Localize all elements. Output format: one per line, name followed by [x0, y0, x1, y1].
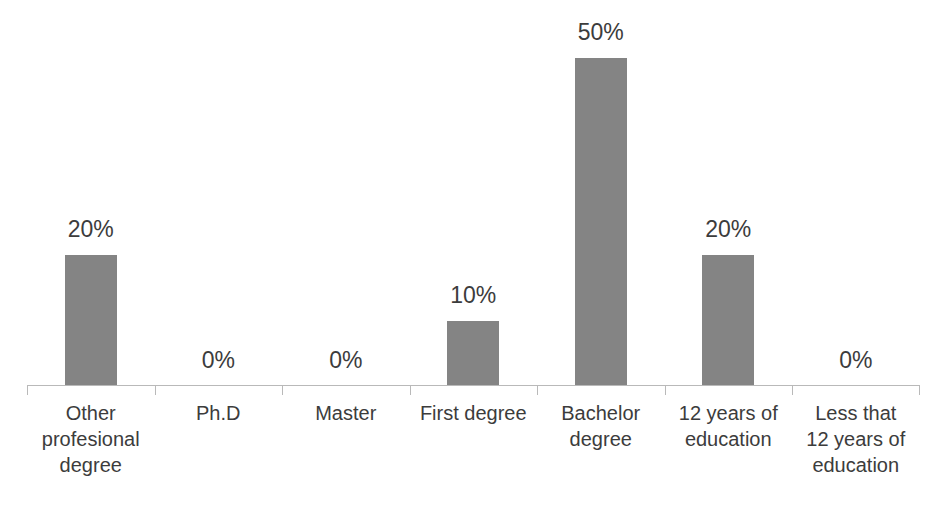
x-tick-label: Master — [282, 400, 410, 426]
x-tick-label-line: Bachelor — [537, 400, 665, 426]
value-label: 20% — [705, 218, 751, 241]
value-label: 0% — [329, 349, 362, 372]
x-tick-label-line: degree — [537, 426, 665, 452]
category-group: 0% — [155, 0, 283, 386]
axis-tick — [155, 386, 156, 395]
x-tick-label-line: education — [665, 426, 793, 452]
axis-tick — [919, 386, 920, 395]
bar — [447, 321, 499, 386]
x-tick-label: Less that 12 years of education — [792, 400, 920, 478]
bar — [575, 58, 627, 386]
category-group: 20% — [665, 0, 793, 386]
bar-chart: 20% 0% 0% 10% 50% 20% 0% Other profesion… — [0, 0, 945, 515]
x-tick-label-line: Other — [27, 400, 155, 426]
x-tick-label: Bachelor degree — [537, 400, 665, 452]
category-group: 0% — [792, 0, 920, 386]
value-label: 20% — [68, 218, 114, 241]
axis-tick — [665, 386, 666, 395]
x-tick-label-line: profesional — [27, 426, 155, 452]
value-label: 0% — [202, 349, 235, 372]
x-tick-label-line: education — [792, 452, 920, 478]
axis-tick — [27, 386, 28, 395]
x-tick-label: 12 years of education — [665, 400, 793, 452]
x-axis-line — [27, 385, 920, 386]
x-tick-label-line: Less that — [792, 400, 920, 426]
x-tick-label: Ph.D — [155, 400, 283, 426]
value-label: 0% — [839, 349, 872, 372]
category-group: 20% — [27, 0, 155, 386]
axis-tick — [792, 386, 793, 395]
axis-tick — [537, 386, 538, 395]
category-group: 50% — [537, 0, 665, 386]
axis-tick — [410, 386, 411, 395]
value-label: 10% — [450, 284, 496, 307]
bar — [65, 255, 117, 386]
axis-tick — [282, 386, 283, 395]
category-group: 10% — [410, 0, 538, 386]
category-group: 0% — [282, 0, 410, 386]
x-tick-label-line: First degree — [410, 400, 538, 426]
x-tick-label: First degree — [410, 400, 538, 426]
x-tick-label-line: Master — [282, 400, 410, 426]
value-label: 50% — [578, 21, 624, 44]
x-tick-label: Other profesional degree — [27, 400, 155, 478]
x-tick-label-line: Ph.D — [155, 400, 283, 426]
x-tick-label-line: 12 years of — [665, 400, 793, 426]
x-tick-label-line: degree — [27, 452, 155, 478]
x-tick-label-line: 12 years of — [792, 426, 920, 452]
bar — [702, 255, 754, 386]
